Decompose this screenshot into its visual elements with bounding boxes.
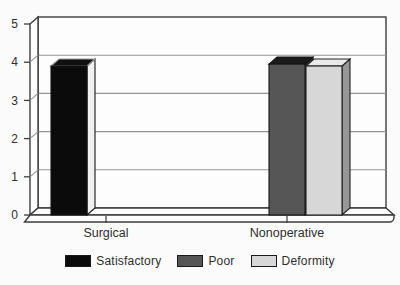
chart-floor-front (25, 215, 395, 222)
category-label-surgical: Surgical (83, 226, 128, 240)
legend-label-satisfactory: Satisfactory (96, 254, 161, 268)
y-axis-label: 5 (11, 17, 18, 31)
legend-item-deformity: Deformity (251, 254, 335, 268)
legend-swatch-deformity (251, 255, 277, 267)
bar-nonoperative-poor (269, 64, 305, 215)
y-axis-label: 1 (11, 170, 18, 184)
bar-surgical-satisfactory (51, 66, 87, 215)
category-label-nonoperative: Nonoperative (250, 226, 324, 240)
bar-top-surgical-satisfactory (51, 59, 95, 66)
chart-left-wall (30, 17, 38, 215)
chart-legend: SatisfactoryPoorDeformity (0, 254, 400, 268)
legend-label-deformity: Deformity (282, 254, 335, 268)
bar-chart-figure: 012345SurgicalNonoperative SatisfactoryP… (0, 0, 400, 285)
bar-side-surgical-satisfactory (87, 59, 95, 215)
legend-swatch-poor (177, 255, 203, 267)
legend-item-satisfactory: Satisfactory (65, 254, 161, 268)
y-axis-label: 2 (11, 132, 18, 146)
y-axis-label: 0 (11, 208, 18, 222)
bar-nonoperative-deformity (306, 66, 342, 215)
legend-label-poor: Poor (208, 254, 234, 268)
legend-swatch-satisfactory (65, 255, 91, 267)
y-axis-label: 3 (11, 94, 18, 108)
chart-plot-area: 012345SurgicalNonoperative (0, 0, 400, 250)
bar-side-nonoperative-deformity (342, 59, 350, 215)
bar-top-nonoperative-deformity (306, 59, 350, 66)
legend-item-poor: Poor (177, 254, 234, 268)
y-axis-label: 4 (11, 55, 18, 69)
bar-top-nonoperative-poor (269, 57, 313, 64)
